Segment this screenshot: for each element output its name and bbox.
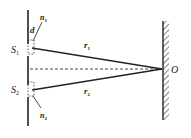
double-slit-diagram: S1 S2 n1 n2 d r1 r2 O <box>0 0 191 138</box>
label-r1: r1 <box>84 40 91 51</box>
ray-r2 <box>32 69 162 90</box>
ray-r1 <box>32 48 162 69</box>
label-r2: r2 <box>84 86 91 97</box>
label-n2: n2 <box>40 111 47 121</box>
label-s1: S1 <box>11 44 19 56</box>
label-s2: S2 <box>11 84 19 96</box>
n2-pointer <box>33 96 41 108</box>
label-d: d <box>30 25 35 35</box>
screen <box>163 21 169 120</box>
film-n1 <box>28 40 34 54</box>
label-o: O <box>171 64 178 75</box>
film-n2 <box>28 82 34 96</box>
label-n1: n1 <box>40 13 47 23</box>
